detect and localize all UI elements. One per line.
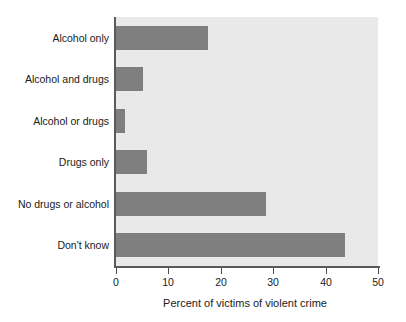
x-tick-mark	[378, 268, 379, 274]
bar-chart-figure: Alcohol onlyAlcohol and drugsAlcohol or …	[0, 0, 406, 322]
y-axis-line	[114, 17, 116, 268]
x-tick-mark	[116, 268, 117, 274]
x-tick-mark	[221, 268, 222, 274]
x-tick-mark	[326, 268, 327, 274]
x-tick-mark	[168, 268, 169, 274]
plot-area	[116, 17, 378, 266]
bar-row	[116, 233, 378, 257]
x-tick-label: 30	[267, 276, 279, 288]
bar	[116, 26, 208, 50]
bar	[116, 67, 143, 91]
bar-row	[116, 26, 378, 50]
x-tick-label: 40	[320, 276, 332, 288]
y-tick-label: Alcohol and drugs	[0, 67, 109, 91]
bar-row	[116, 150, 378, 174]
bar-row	[116, 109, 378, 133]
y-tick-label: Don't know	[0, 233, 109, 257]
y-tick-label: No drugs or alcohol	[0, 192, 109, 216]
bar	[116, 150, 147, 174]
bar	[116, 109, 125, 133]
y-tick-label: Alcohol only	[0, 26, 109, 50]
x-axis-title: Percent of victims of violent crime	[0, 297, 406, 309]
x-axis-line	[114, 266, 380, 268]
x-tick-label: 50	[372, 276, 384, 288]
y-tick-label: Alcohol or drugs	[0, 109, 109, 133]
x-tick-label: 20	[215, 276, 227, 288]
bar-row	[116, 192, 378, 216]
x-tick-label: 0	[113, 276, 119, 288]
bar	[116, 192, 266, 216]
x-tick-label: 10	[162, 276, 174, 288]
y-tick-label: Drugs only	[0, 150, 109, 174]
x-tick-mark	[273, 268, 274, 274]
bar	[116, 233, 345, 257]
bar-row	[116, 67, 378, 91]
